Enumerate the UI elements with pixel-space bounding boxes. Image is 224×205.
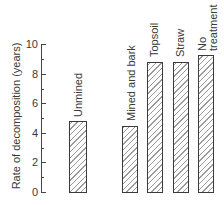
y-tick-label: 8 bbox=[18, 69, 38, 80]
bar-straw bbox=[173, 62, 189, 193]
y-tick-label: 10 bbox=[18, 39, 38, 50]
y-tick-minor bbox=[41, 59, 44, 60]
y-tick-label: 6 bbox=[18, 98, 38, 109]
y-tick-minor bbox=[41, 177, 44, 178]
bar-no-treatment bbox=[198, 55, 214, 193]
bar-unmined bbox=[69, 121, 87, 193]
bar-mined-and-bark bbox=[122, 126, 138, 193]
y-tick-major bbox=[41, 74, 46, 75]
bar-chart: Rate of decomposition (years) 0 2 4 6 8 … bbox=[0, 0, 224, 205]
y-tick-major bbox=[41, 133, 46, 134]
y-tick-label: 2 bbox=[18, 157, 38, 168]
y-tick-major bbox=[41, 103, 46, 104]
category-label-straw: Straw bbox=[175, 29, 186, 57]
y-tick-major bbox=[41, 162, 46, 163]
y-tick-minor bbox=[41, 148, 44, 149]
category-label-mined-and-bark: Mined and bark bbox=[126, 45, 137, 121]
category-label-topsoil: Topsoil bbox=[149, 23, 160, 57]
y-tick-major bbox=[41, 192, 46, 193]
bar-topsoil bbox=[147, 62, 163, 193]
y-tick-label: 4 bbox=[18, 128, 38, 139]
category-label-no-treatment: No treatment bbox=[197, 0, 219, 51]
y-tick-minor bbox=[41, 118, 44, 119]
y-tick-major bbox=[41, 44, 46, 45]
category-label-unmined: Unmined bbox=[73, 73, 84, 117]
y-tick-minor bbox=[41, 89, 44, 90]
y-tick-label: 0 bbox=[18, 187, 38, 198]
